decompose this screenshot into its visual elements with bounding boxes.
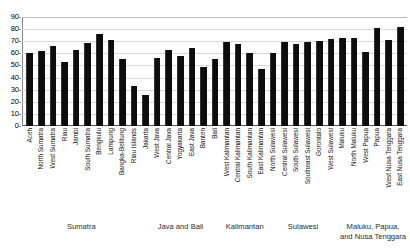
bar-slot [47, 17, 59, 126]
bar-slot [24, 17, 36, 126]
x-axis-tick-label: South Kalimantan [247, 128, 253, 178]
x-axis-label-slot: West Kalimantan [221, 128, 233, 200]
x-axis-tick-label: Bangka-Belitung [119, 128, 125, 175]
bar-slot [117, 17, 129, 126]
x-axis-tick-label: Riau Islands [131, 128, 137, 163]
bar [26, 53, 33, 126]
bar [328, 39, 335, 126]
bar-slot [232, 17, 244, 126]
bar-slot [337, 17, 349, 126]
bar [38, 51, 45, 126]
bar-slot [36, 17, 48, 126]
group-label: Maluku, Papua,and Nusa Tenggara [318, 222, 410, 243]
x-axis-tick-label: North Sumatra [38, 128, 44, 170]
x-axis-label-slot: Yogyakarta [175, 128, 187, 200]
y-axis-tick-label: 50 [0, 62, 19, 70]
x-axis-labels: AcehNorth SumatraWest SumatraRiauJambiSo… [23, 128, 407, 200]
x-axis-tick-label: South Sulawesi [293, 128, 299, 172]
bar-chart: 0102030405060708090 AcehNorth SumatraWes… [0, 0, 410, 252]
x-axis-tick-label: Gorontalo [316, 128, 322, 156]
y-axis-tick-mark [18, 17, 21, 18]
bar-slot [313, 17, 325, 126]
bar-slot [221, 17, 233, 126]
bar [50, 46, 57, 126]
x-axis-label-slot: Riau Islands [128, 128, 140, 200]
x-axis-label-slot: Central Java [163, 128, 175, 200]
x-axis-tick-label: Central Java [166, 128, 172, 164]
bar [316, 41, 323, 126]
bar [362, 52, 369, 126]
x-axis-tick-label: Jakarta [142, 128, 148, 149]
bar [84, 43, 91, 126]
bar [165, 50, 172, 126]
bar-slot [325, 17, 337, 126]
x-axis-tick-label: West Nusa Tenggara [386, 128, 392, 187]
y-axis-tick-label: 70 [0, 37, 19, 45]
bar [177, 56, 184, 126]
x-axis-tick-label: Bali [212, 128, 218, 139]
x-axis-tick-label: Central Kalimantan [235, 128, 241, 182]
bar [142, 95, 149, 126]
x-axis-tick-label: East Java [189, 128, 195, 156]
bar-slot [395, 17, 407, 126]
bar-slot [59, 17, 71, 126]
group-labels: SumatraJava and BaliKalimantanSulawesiMa… [23, 222, 407, 250]
bar-slot [198, 17, 210, 126]
x-axis-label-slot: North Sumatra [36, 128, 48, 200]
y-axis-tick-label: 30 [0, 86, 19, 94]
x-axis-tick-label: South Sumatra [84, 128, 90, 171]
bar [119, 59, 126, 126]
x-axis-label-slot: Bengkulu [93, 128, 105, 200]
x-axis-label-slot: Lampung [105, 128, 117, 200]
x-axis-tick-label: Banten [200, 128, 206, 148]
bar [96, 34, 103, 126]
y-axis-tick-mark [18, 41, 21, 42]
x-axis-tick-label: Aceh [27, 128, 33, 143]
bar [304, 42, 311, 126]
bar-slot [186, 17, 198, 126]
y-axis-tick-mark [18, 53, 21, 54]
bar-slot [348, 17, 360, 126]
bar [293, 44, 300, 126]
x-axis-tick-label: West Java [154, 128, 160, 158]
y-axis-tick-mark [18, 65, 21, 66]
bar-slot [209, 17, 221, 126]
x-axis-label-slot: South Sulawesi [290, 128, 302, 200]
bar [131, 86, 138, 126]
x-axis-label-slot: West Nusa Tenggara [383, 128, 395, 200]
x-axis-label-slot: Gorontalo [313, 128, 325, 200]
bar [258, 69, 265, 126]
x-axis-tick-label: West Sumatra [50, 128, 56, 168]
x-axis-label-slot: South Kalimantan [244, 128, 256, 200]
x-axis-tick-label: Lampung [108, 128, 114, 155]
x-axis-label-slot: Central Kalimantan [232, 128, 244, 200]
bar-slot [105, 17, 117, 126]
y-axis-tick-mark [18, 90, 21, 91]
x-axis-label-slot: West Java [151, 128, 163, 200]
bar-slot [360, 17, 372, 126]
y-axis-tick-label: 40 [0, 74, 19, 82]
x-axis-label-slot: Banten [198, 128, 210, 200]
x-axis-label-slot: Jambi [70, 128, 82, 200]
y-axis-tick-mark [18, 114, 21, 115]
bar-slot [70, 17, 82, 126]
bar [73, 50, 80, 126]
bar-slot [175, 17, 187, 126]
x-axis-tick-label: West Papua [362, 128, 368, 163]
y-axis-tick-mark [18, 78, 21, 79]
bar-slot [93, 17, 105, 126]
bar [154, 58, 161, 126]
x-axis-label-slot: Riau [59, 128, 71, 200]
y-axis-tick-label: 80 [0, 25, 19, 33]
bar [61, 62, 68, 126]
y-axis-tick-mark [18, 102, 21, 103]
y-axis-tick-label: 90 [0, 13, 19, 21]
x-axis-label-slot: Maluku [337, 128, 349, 200]
y-axis-tick-label: 0 [0, 122, 19, 130]
x-axis-label-slot: Aceh [24, 128, 36, 200]
bar [351, 38, 358, 126]
x-axis-label-slot: South Sumatra [82, 128, 94, 200]
bar [189, 48, 196, 126]
x-axis-tick-label: East Kalimantan [258, 128, 264, 175]
bar-slot [290, 17, 302, 126]
